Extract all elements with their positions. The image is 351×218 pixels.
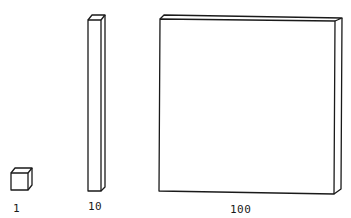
ten-rod-shape [88, 15, 105, 191]
hundred-flat-shape [159, 15, 342, 194]
base-ten-blocks-figure [0, 0, 351, 218]
hundred-flat-label: 100 [230, 203, 251, 216]
unit-cube-shape [11, 168, 32, 190]
ten-rod-label: 10 [88, 200, 102, 213]
unit-cube-label: 1 [13, 202, 20, 215]
